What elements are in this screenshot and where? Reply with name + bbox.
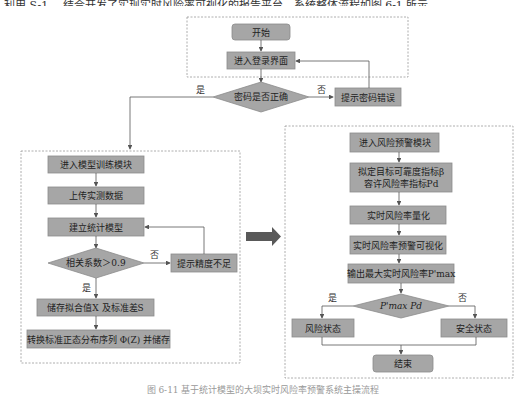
- svg-text:相关系数＞0.9: 相关系数＞0.9: [66, 257, 126, 268]
- big-right-arrow-icon: [246, 227, 281, 246]
- svg-text:转换标准正态分布序列 Φ(Z) 并储存: 转换标准正态分布序列 Φ(Z) 并储存: [27, 334, 170, 345]
- svg-text:提示精度不足: 提示精度不足: [177, 258, 231, 269]
- login-module-frame: [187, 17, 408, 77]
- visualize-node: 实时风险率预警可视化: [350, 236, 446, 254]
- svg-text:进入登录界面: 进入登录界面: [234, 56, 288, 66]
- store-fit-node: 储存拟合值X 及标准差S: [37, 299, 154, 316]
- transform-node: 转换标准正态分布序列 Φ(Z) 并储存: [27, 330, 170, 348]
- flowchart: 开始 进入登录界面 密码是否正确 否 提示密码错误 是 进入模型训练模块 上传实…: [0, 0, 526, 395]
- svg-text:实时风险率量化: 实时风险率量化: [367, 210, 430, 221]
- compare-decision: P'max Pd: [353, 294, 449, 318]
- risk-state-node: 风险状态: [292, 319, 354, 337]
- svg-text:进入模型训练模块: 进入模型训练模块: [60, 159, 132, 170]
- upload-data-node: 上传实测数据: [48, 187, 144, 204]
- password-check-decision: 密码是否正确: [213, 82, 309, 112]
- svg-text:安全状态: 安全状态: [456, 323, 492, 334]
- svg-text:输出最大实时风险率P'max: 输出最大实时风险率P'max: [347, 268, 456, 279]
- svg-text:储存拟合值X 及标准差S: 储存拟合值X 及标准差S: [47, 302, 143, 313]
- svg-text:上传实测数据: 上传实测数据: [69, 190, 123, 201]
- svg-text:进入风险预警模块: 进入风险预警模块: [359, 137, 431, 148]
- yes-label: 是: [196, 85, 205, 95]
- svg-text:结束: 结束: [394, 358, 412, 369]
- build-model-node: 建立统计模型: [48, 218, 144, 236]
- yes-label: 是: [328, 293, 337, 303]
- svg-text:开始: 开始: [252, 27, 270, 38]
- yes-label: 是: [82, 283, 91, 293]
- svg-text:实时风险率预警可视化: 实时风险率预警可视化: [353, 240, 443, 251]
- svg-text:建立统计模型: 建立统计模型: [69, 222, 123, 233]
- set-indicators-node: 拟定目标可靠度指标β 容许风险率指标Pd: [350, 163, 452, 192]
- enter-training-node: 进入模型训练模块: [48, 156, 144, 173]
- enter-login-node: 进入登录界面: [227, 52, 295, 69]
- svg-text:提示密码错误: 提示密码错误: [341, 92, 395, 103]
- svg-text:拟定目标可靠度指标β: 拟定目标可靠度指标β: [358, 166, 444, 177]
- quantify-node: 实时风险率量化: [350, 206, 446, 224]
- svg-text:P'max Pd: P'max Pd: [379, 301, 422, 311]
- figure-caption: 图 6-11 基于统计模型的大坝实时风险率预警系统主操流程: [0, 383, 526, 395]
- svg-text:风险状态: 风险状态: [305, 323, 341, 334]
- low-precision-node: 提示精度不足: [171, 254, 237, 272]
- no-label: 否: [150, 250, 159, 260]
- enter-warning-node: 进入风险预警模块: [350, 133, 439, 152]
- end-node: 结束: [373, 355, 433, 372]
- no-label: 否: [458, 293, 467, 303]
- output-max-node: 输出最大实时风险率P'max: [347, 264, 456, 283]
- svg-text:容许风险率指标Pd: 容许风险率指标Pd: [364, 178, 439, 189]
- safe-state-node: 安全状态: [441, 319, 507, 337]
- no-label: 否: [317, 85, 326, 95]
- correlation-decision: 相关系数＞0.9: [48, 248, 144, 278]
- start-node: 开始: [232, 24, 290, 40]
- password-error-node: 提示密码错误: [335, 88, 401, 106]
- svg-text:密码是否正确: 密码是否正确: [234, 91, 288, 102]
